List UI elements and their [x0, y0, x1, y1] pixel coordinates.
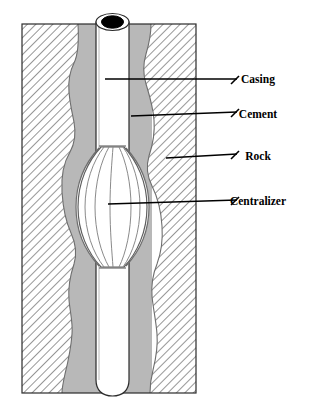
arrow-tick-casing	[231, 76, 239, 84]
label-centralizer: Centralizer	[230, 195, 286, 207]
labels-group: Casing Cement Rock Centralizer	[230, 73, 286, 207]
arrow-tick-cement	[231, 109, 239, 117]
label-rock: Rock	[245, 150, 271, 162]
label-casing: Casing	[241, 73, 275, 86]
wellbore-diagram: Casing Cement Rock Centralizer	[0, 0, 318, 412]
centralizer-assembly	[76, 146, 149, 268]
casing-bore-opening	[102, 16, 124, 28]
diagram-canvas: Casing Cement Rock Centralizer	[0, 0, 318, 412]
label-cement: Cement	[239, 108, 277, 120]
centralizer-cage	[78, 147, 147, 267]
